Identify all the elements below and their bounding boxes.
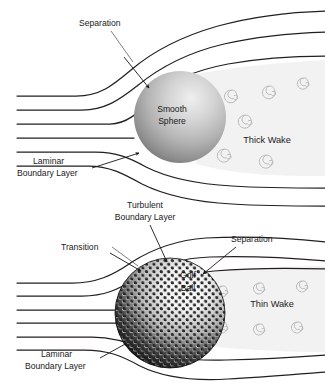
laminar-label-bottom-line1: Laminar [41, 349, 72, 359]
separation-leader-top [111, 31, 133, 62]
laminar-label-top-line2: Boundary Layer [17, 168, 78, 178]
laminar-label-bottom-line2: Boundary Layer [25, 361, 86, 371]
transition-arrow [110, 253, 141, 271]
transition-label: Transition [61, 242, 99, 252]
golf-ball-dimples [115, 258, 225, 368]
turbulent-label-line2: Boundary Layer [115, 212, 176, 222]
turbulent-arrow [150, 225, 167, 262]
panel-golf-ball: Golf Ball Thin Wake Turbulent Boundary L… [17, 200, 325, 380]
laminar-arrow-bottom [100, 343, 127, 358]
separation-label-bottom: Separation [231, 234, 273, 244]
golf-ball-label-line1: Golf [180, 270, 196, 280]
smooth-sphere-label-line1: Smooth [157, 104, 187, 114]
laminar-label-top-line1: Laminar [33, 156, 64, 166]
thick-wake-label: Thick Wake [243, 135, 291, 145]
separation-label-top: Separation [79, 18, 121, 28]
smooth-sphere-label-line2: Sphere [158, 116, 186, 126]
golf-ball-label-line2: Ball [181, 283, 195, 293]
thin-wake-label: Thin Wake [250, 299, 294, 309]
flow-separation-figure: Smooth Sphere Thick Wake Separation Lami… [0, 0, 325, 388]
turbulent-label-line1: Turbulent [127, 200, 164, 210]
figure-canvas: Smooth Sphere Thick Wake Separation Lami… [0, 0, 325, 388]
panel-smooth-sphere: Smooth Sphere Thick Wake Separation Lami… [17, 11, 325, 206]
